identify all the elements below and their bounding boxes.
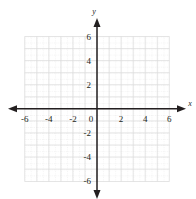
y-tick-label: 2: [87, 80, 92, 90]
y-tick-label: -6: [84, 176, 92, 186]
y-axis-label: y: [91, 7, 96, 16]
y-tick-label: 6: [87, 32, 92, 42]
coordinate-plane-figure: y x -6 -4 -2 0 2 4 6 6 4 2 -2 -4 -6: [0, 0, 196, 199]
x-tick-label: -6: [21, 114, 29, 124]
y-axis-arrow-top: [94, 18, 101, 27]
y-tick-label: 4: [87, 56, 92, 66]
x-axis-arrow-right: [177, 105, 186, 112]
x-tick-label: 2: [119, 114, 124, 124]
x-tick-label: 4: [143, 114, 148, 124]
origin-label: 0: [89, 114, 94, 124]
graph-canvas: y x -6 -4 -2 0 2 4 6 6 4 2 -2 -4 -6: [0, 0, 196, 199]
x-tick-label: 6: [167, 114, 172, 124]
y-tick-label: -2: [84, 128, 92, 138]
x-tick-label: -4: [45, 114, 53, 124]
x-axis-label: x: [187, 99, 192, 108]
y-axis-arrow-bottom: [94, 190, 101, 199]
x-axis-arrow-left: [8, 105, 17, 112]
y-tick-label: -4: [84, 152, 92, 162]
x-tick-label: -2: [69, 114, 77, 124]
